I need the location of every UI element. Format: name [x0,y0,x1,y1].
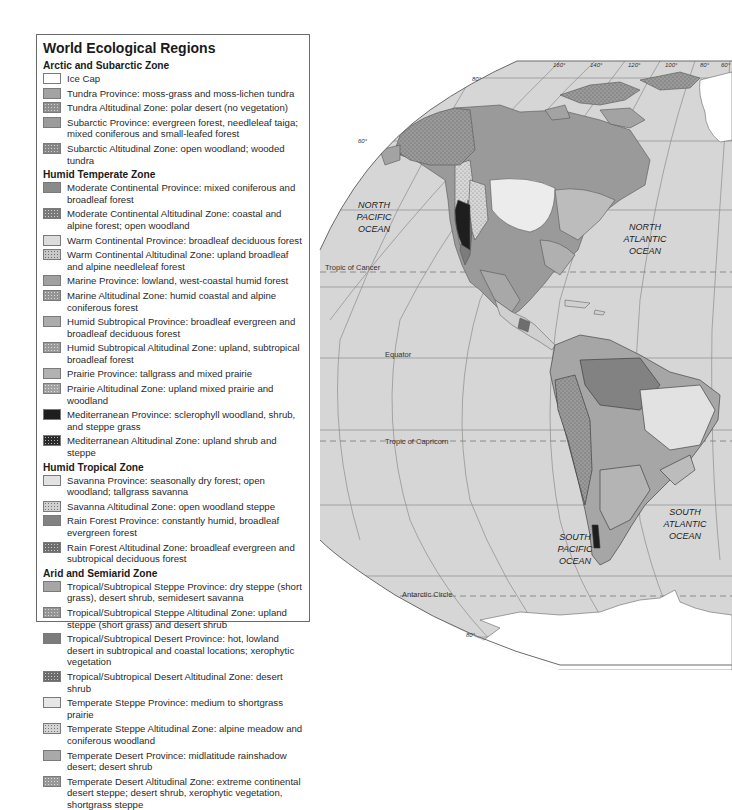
legend-item: Tropical/Subtropical Steppe Province: dr… [43,581,303,604]
legend-item-label: Subarctic Altitudinal Zone: open woodlan… [67,143,303,166]
legend-item-label: Temperate Desert Altitudinal Zone: extre… [67,776,303,810]
legend-swatch [43,697,61,708]
svg-text:OCEAN: OCEAN [559,556,592,566]
legend-zone-heading: Arctic and Subarctic Zone [43,60,303,71]
legend-swatch [43,750,61,761]
legend-item: Warm Continental Province: broadleaf dec… [43,235,303,247]
svg-text:80°: 80° [466,632,476,638]
legend-item: Moderate Continental Province: mixed con… [43,182,303,205]
legend-swatch [43,581,61,592]
legend-item-label: Prairie Altitudinal Zone: upland mixed p… [67,383,303,406]
legend-swatch [43,102,61,113]
svg-text:NORTH: NORTH [358,200,390,210]
legend-swatch [43,117,61,128]
legend-item: Tundra Province: moss-grass and moss-lic… [43,88,303,100]
legend-swatch [43,73,61,84]
legend-item: Tropical/Subtropical Desert Altitudinal … [43,671,303,694]
svg-text:100°: 100° [665,62,678,68]
legend-swatch [43,542,61,553]
legend-item-label: Temperate Steppe Province: medium to sho… [67,697,303,720]
legend-item-label: Temperate Desert Province: midlatitude r… [67,750,303,773]
legend-item-label: Humid Subtropical Province: broadleaf ev… [67,316,303,339]
legend-swatch [43,723,61,734]
legend-zone-heading: Humid Temperate Zone [43,169,303,180]
legend-swatch [43,607,61,618]
svg-text:160°: 160° [553,62,566,68]
legend-swatch [43,409,61,420]
legend-item: Subarctic Altitudinal Zone: open woodlan… [43,143,303,166]
legend-item-label: Mediterranean Altitudinal Zone: upland s… [67,435,303,458]
legend-item: Ice Cap [43,73,303,85]
legend-item-label: Prairie Province: tallgrass and mixed pr… [67,368,252,380]
svg-text:60°: 60° [721,62,731,68]
legend-swatch [43,368,61,379]
legend-zone-heading: Humid Tropical Zone [43,462,303,473]
svg-text:NORTH: NORTH [629,222,661,232]
legend-item: Temperate Steppe Province: medium to sho… [43,697,303,720]
legend-item: Rain Forest Province: constantly humid, … [43,515,303,538]
legend-item-label: Warm Continental Province: broadleaf dec… [67,235,302,247]
legend-item: Temperate Desert Province: midlatitude r… [43,750,303,773]
legend-item: Humid Subtropical Province: broadleaf ev… [43,316,303,339]
legend-item: Mediterranean Altitudinal Zone: upland s… [43,435,303,458]
legend-item-label: Humid Subtropical Altitudinal Zone: upla… [67,342,303,365]
legend-item: Moderate Continental Altitudinal Zone: c… [43,208,303,231]
legend-swatch [43,88,61,99]
legend-swatch [43,776,61,787]
legend-item: Humid Subtropical Altitudinal Zone: upla… [43,342,303,365]
south-pacific-label: SOUTH PACIFIC OCEAN [558,532,593,566]
legend-swatch [43,501,61,512]
legend-swatch [43,316,61,327]
legend-item-label: Mediterranean Province: sclerophyll wood… [67,409,303,432]
legend-item: Warm Continental Altitudinal Zone: uplan… [43,249,303,272]
legend-item-label: Tropical/Subtropical Desert Altitudinal … [67,671,303,694]
legend-item: Tropical/Subtropical Desert Province: ho… [43,633,303,668]
legend-item: Marine Altitudinal Zone: humid coastal a… [43,290,303,313]
legend-item-label: Temperate Steppe Altitudinal Zone: alpin… [67,723,303,746]
tropic-of-capricorn-label: Tropic of Capricorn [385,437,449,446]
legend-swatch [43,275,61,286]
legend-swatch [43,249,61,260]
legend-item-label: Tropical/Subtropical Steppe Province: dr… [67,581,303,604]
svg-text:ATLANTIC: ATLANTIC [623,234,667,244]
north-pacific-label: NORTH PACIFIC OCEAN [357,200,392,234]
legend-swatch [43,435,61,446]
legend-item-label: Tundra Province: moss-grass and moss-lic… [67,88,294,100]
svg-text:OCEAN: OCEAN [669,531,702,541]
svg-text:PACIFIC: PACIFIC [558,544,593,554]
legend-item-label: Savanna Province: seasonally dry forest;… [67,475,303,498]
legend-item-label: Marine Altitudinal Zone: humid coastal a… [67,290,303,313]
legend-item-label: Tropical/Subtropical Desert Province: ho… [67,633,303,668]
svg-text:140°: 140° [590,62,603,68]
legend-swatch [43,182,61,193]
legend-item: Temperate Desert Altitudinal Zone: extre… [43,776,303,810]
legend-item-label: Warm Continental Altitudinal Zone: uplan… [67,249,303,272]
legend-item: Prairie Altitudinal Zone: upland mixed p… [43,383,303,406]
legend-item-label: Subarctic Province: evergreen forest, ne… [67,117,303,140]
legend-title: World Ecological Regions [43,40,303,56]
legend-item: Savanna Province: seasonally dry forest;… [43,475,303,498]
svg-text:120°: 120° [628,62,641,68]
legend-swatch [43,633,61,644]
legend-item: Tropical/Subtropical Steppe Altitudinal … [43,607,303,630]
svg-text:OCEAN: OCEAN [358,224,391,234]
legend-item-label: Moderate Continental Province: mixed con… [67,182,303,205]
map-legend: World Ecological Regions Arctic and Suba… [36,34,310,622]
legend-swatch [43,515,61,526]
svg-text:80°: 80° [700,62,710,68]
legend-swatch [43,208,61,219]
legend-item: Rain Forest Altitudinal Zone: broadleaf … [43,542,303,565]
legend-item-label: Moderate Continental Altitudinal Zone: c… [67,208,303,231]
legend-swatch [43,143,61,154]
legend-item-label: Marine Province: lowland, west-coastal h… [67,275,288,287]
legend-zone-heading: Arid and Semiarid Zone [43,568,303,579]
legend-item-label: Tundra Altitudinal Zone: polar desert (n… [67,102,288,114]
svg-text:PACIFIC: PACIFIC [357,212,392,222]
svg-text:ATLANTIC: ATLANTIC [663,519,707,529]
legend-swatch [43,383,61,394]
legend-item-label: Rain Forest Province: constantly humid, … [67,515,303,538]
legend-item-label: Ice Cap [67,73,100,85]
map-frame [300,55,732,670]
legend-item-label: Rain Forest Altitudinal Zone: broadleaf … [67,542,303,565]
legend-swatch [43,342,61,353]
